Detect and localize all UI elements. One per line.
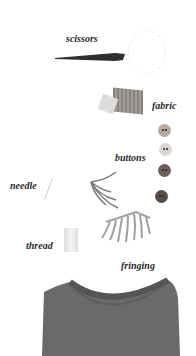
needle-illustration [44,178,52,199]
fringing-label: fringing [121,260,155,271]
tshirt-illustration [40,278,180,356]
fringing-illustration [96,210,154,246]
needle-label: needle [10,180,37,191]
buttons-label: buttons [115,152,146,163]
thread-spool [64,228,78,252]
fabric-label: fabric [152,100,176,111]
scissors-blade-icon [55,52,125,62]
scissors-illustration [55,47,125,57]
button-4-icon [155,190,168,203]
scissors-label: scissors [66,33,98,44]
tassel-illustration [86,170,126,210]
button-3-icon [158,164,171,177]
scissors-handle [128,30,166,74]
button-1-icon [158,124,171,137]
thread-label: thread [26,240,53,251]
button-2-icon [159,143,172,156]
